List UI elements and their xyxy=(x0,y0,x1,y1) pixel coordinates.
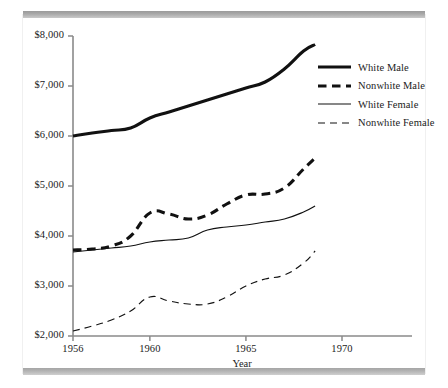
legend-item-nonwhite-female: Nonwhite Female xyxy=(318,116,434,130)
y-tick-label: $2,000 xyxy=(0,329,64,340)
page-frame: $2,000$3,000$4,000$5,000$6,000$7,000$8,0… xyxy=(0,0,448,388)
legend-item-nonwhite-male: Nonwhite Male xyxy=(318,79,425,93)
series-line-nonwhite-female xyxy=(73,251,315,331)
y-tick-label: $5,000 xyxy=(0,179,64,190)
series-line-white-female xyxy=(73,206,315,252)
line-chart xyxy=(0,0,448,388)
series-lines xyxy=(73,45,315,332)
y-tick-label: $4,000 xyxy=(0,229,64,240)
legend-swatch-icon xyxy=(318,117,351,129)
legend-swatch-icon xyxy=(318,98,351,110)
legend-label: White Female xyxy=(358,99,418,110)
legend-swatch-icon xyxy=(318,80,351,92)
series-line-white-male xyxy=(73,45,315,137)
legend-label: Nonwhite Male xyxy=(358,80,425,91)
legend-label: White Male xyxy=(358,62,409,73)
legend-label: Nonwhite Female xyxy=(358,117,434,128)
x-axis-title: Year xyxy=(202,358,282,369)
x-tick-label: 1970 xyxy=(312,343,372,354)
x-tick-label: 1965 xyxy=(216,343,276,354)
y-tick-label: $3,000 xyxy=(0,279,64,290)
legend-item-white-female: White Female xyxy=(318,97,418,111)
legend-item-white-male: White Male xyxy=(318,60,409,74)
axis-ticks xyxy=(68,36,342,341)
y-tick-label: $7,000 xyxy=(0,79,64,90)
y-tick-label: $6,000 xyxy=(0,129,64,140)
legend-swatch-icon xyxy=(318,61,351,73)
x-tick-label: 1960 xyxy=(120,343,180,354)
y-tick-label: $8,000 xyxy=(0,29,64,40)
x-tick-label: 1956 xyxy=(43,343,103,354)
